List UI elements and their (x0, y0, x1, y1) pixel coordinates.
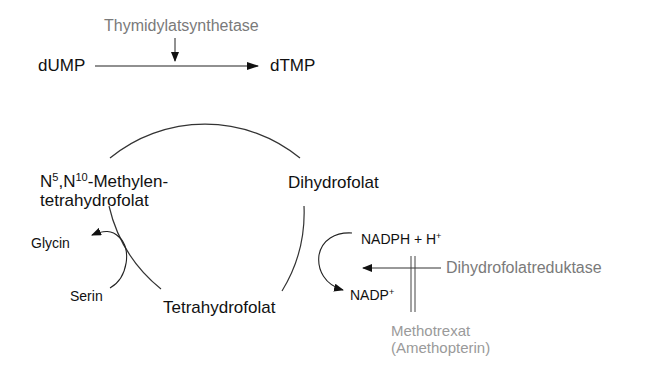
nadp-text: NADP (350, 287, 389, 303)
methylene-suffix: -Methylen- (88, 172, 168, 191)
nadph-nadp-arrow (319, 233, 352, 290)
enzyme-dihydrofolatreduktase: Dihydrofolatreduktase (446, 260, 602, 276)
inhibitor-methotrexat: Methotrexat (391, 322, 470, 340)
methylene-sup-10: 10 (75, 171, 87, 183)
node-methylene-thf: N5,N10-Methylen- (40, 173, 168, 190)
label-serin: Serin (70, 289, 103, 303)
nadph-sup: + (436, 231, 441, 241)
label-nadph: NADPH + H+ (361, 232, 441, 246)
node-tetrahydrofolat: Tetrahydrofolat (163, 299, 275, 316)
node-methylene-thf-line2: tetrahydrofolat (40, 192, 149, 209)
inhibitor-amethopterin: (Amethopterin) (391, 339, 490, 357)
methylene-n: N (40, 172, 52, 191)
label-glycin: Glycin (31, 236, 70, 250)
label-nadp: NADP+ (350, 288, 394, 302)
nadph-text: NADPH + H (361, 231, 436, 247)
methylene-n2: ,N (58, 172, 75, 191)
substrate-dump: dUMP (38, 57, 85, 74)
nadp-sup: + (389, 287, 394, 297)
serin-glycin-arrow (92, 231, 127, 288)
node-dihydrofolat: Dihydrofolat (288, 174, 379, 191)
product-dtmp: dTMP (270, 57, 315, 74)
enzyme-thymidylatsynthetase: Thymidylatsynthetase (104, 18, 259, 34)
